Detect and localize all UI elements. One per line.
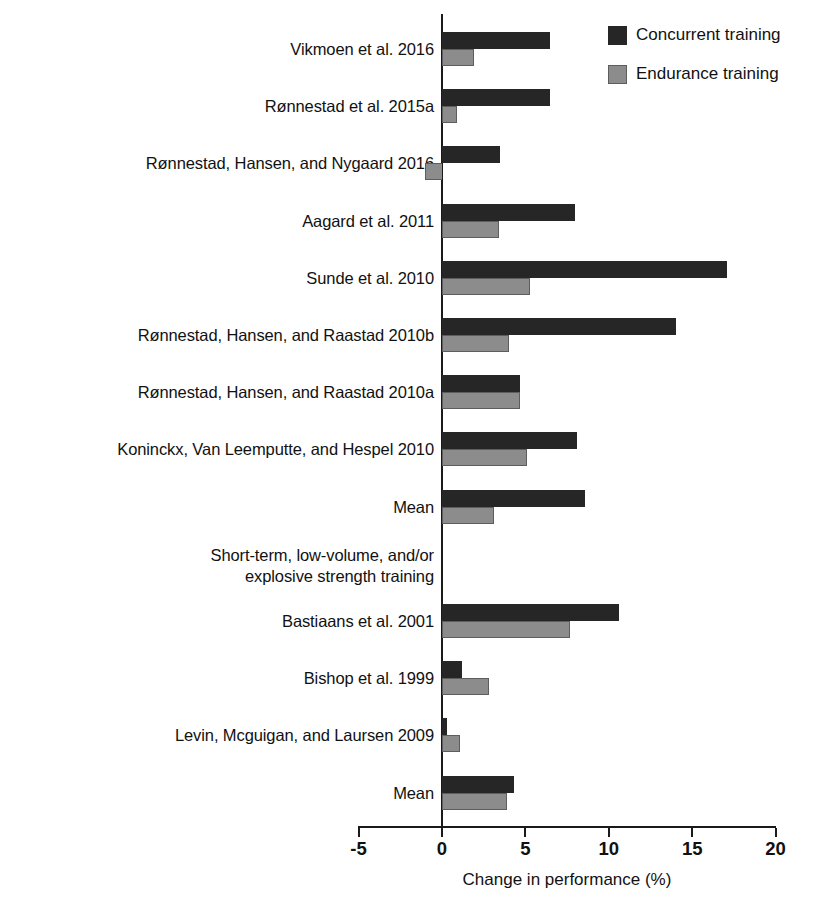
row-label: Sunde et al. 2010 <box>14 269 434 287</box>
bar-concurrent <box>442 375 520 392</box>
bar-row: Sunde et al. 2010 <box>0 261 831 295</box>
bar-row: Koninckx, Van Leemputte, and Hespel 2010 <box>0 432 831 466</box>
x-axis <box>358 826 776 835</box>
legend-label-endurance: Endurance training <box>636 64 779 84</box>
row-label: Rønnestad, Hansen, and Raastad 2010a <box>14 383 434 401</box>
bar-concurrent <box>442 432 577 449</box>
bar-row: Mean <box>0 776 831 810</box>
legend-swatch-icon-concurrent <box>608 26 627 45</box>
section-header-row: Short-term, low-volume, and/or explosive… <box>0 547 831 581</box>
bar-concurrent <box>442 146 500 163</box>
zero-baseline-axis <box>441 14 443 826</box>
bar-concurrent <box>442 261 727 278</box>
legend-item-concurrent-training: Concurrent training <box>608 25 781 45</box>
row-label: Rønnestad, Hansen, and Nygaard 2016 <box>14 154 434 172</box>
bar-concurrent <box>442 718 447 735</box>
bar-endurance <box>442 449 527 466</box>
bar-concurrent <box>442 32 550 49</box>
row-label: Bastiaans et al. 2001 <box>14 612 434 630</box>
bar-endurance <box>442 221 499 238</box>
row-label: Mean <box>14 498 434 516</box>
row-label: Bishop et al. 1999 <box>14 669 434 687</box>
bar-row: Mean <box>0 490 831 524</box>
bar-endurance <box>442 678 489 695</box>
bar-endurance <box>442 793 507 810</box>
bar-row: Bastiaans et al. 2001 <box>0 604 831 638</box>
row-label: Rønnestad et al. 2015a <box>14 97 434 115</box>
bar-endurance <box>442 335 509 352</box>
x-axis-tick <box>524 828 526 837</box>
row-label: Short-term, low-volume, and/or explosive… <box>14 545 434 587</box>
x-axis-tick <box>441 828 443 837</box>
bar-row: Bishop et al. 1999 <box>0 661 831 695</box>
bar-row: Aagard et al. 2011 <box>0 204 831 238</box>
x-axis-tick <box>608 828 610 837</box>
legend-swatch-icon-endurance <box>608 65 627 84</box>
x-axis-tick <box>358 828 360 837</box>
bar-concurrent <box>442 89 550 106</box>
x-axis-tick-label: 15 <box>667 838 717 860</box>
row-label: Rønnestad, Hansen, and Raastad 2010b <box>14 326 434 344</box>
row-label: Vikmoen et al. 2016 <box>14 40 434 58</box>
bar-endurance <box>442 106 457 123</box>
x-axis-tick-label: 10 <box>584 838 634 860</box>
bar-concurrent <box>442 776 514 793</box>
bar-concurrent <box>442 490 585 507</box>
row-label: Koninckx, Van Leemputte, and Hespel 2010 <box>14 440 434 458</box>
x-axis-tick-label: 5 <box>500 838 550 860</box>
x-axis-tick-label: 20 <box>751 838 801 860</box>
x-axis-title: Change in performance (%) <box>358 870 776 890</box>
chart-legend: Concurrent training Endurance training <box>608 25 781 103</box>
row-label: Aagard et al. 2011 <box>14 212 434 230</box>
bar-concurrent <box>442 604 619 621</box>
x-axis-tick <box>775 828 777 837</box>
performance-change-bar-chart: Vikmoen et al. 2016Rønnestad et al. 2015… <box>0 0 831 906</box>
bar-endurance <box>425 163 442 180</box>
legend-label-concurrent: Concurrent training <box>636 25 781 45</box>
plot-area: Vikmoen et al. 2016Rønnestad et al. 2015… <box>0 0 831 906</box>
row-label: Mean <box>14 784 434 802</box>
bar-row: Rønnestad, Hansen, and Raastad 2010a <box>0 375 831 409</box>
bar-row: Levin, Mcguigan, and Laursen 2009 <box>0 718 831 752</box>
bar-row: Rønnestad, Hansen, and Nygaard 2016 <box>0 146 831 180</box>
x-axis-tick <box>691 828 693 837</box>
bar-endurance <box>442 735 460 752</box>
bar-endurance <box>442 392 520 409</box>
bar-endurance <box>442 49 474 66</box>
legend-item-endurance-training: Endurance training <box>608 64 781 84</box>
bar-endurance <box>442 621 570 638</box>
bar-concurrent <box>442 204 575 221</box>
x-axis-tick-label: -5 <box>334 838 384 860</box>
bar-concurrent <box>442 661 462 678</box>
bar-endurance <box>442 278 530 295</box>
row-label: Levin, Mcguigan, and Laursen 2009 <box>14 726 434 744</box>
bar-concurrent <box>442 318 676 335</box>
x-axis-tick-label: 0 <box>417 838 467 860</box>
bar-endurance <box>442 507 494 524</box>
bar-row: Rønnestad, Hansen, and Raastad 2010b <box>0 318 831 352</box>
